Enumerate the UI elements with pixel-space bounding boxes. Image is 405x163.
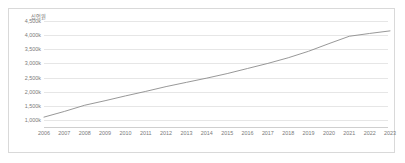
data-line-svg: [9, 9, 396, 154]
line-chart: 십억원 4,500k4,000k3,500k3,000k2,500k2,000k…: [9, 9, 394, 152]
chart-card: 십억원 4,500k4,000k3,500k3,000k2,500k2,000k…: [8, 8, 395, 153]
series-line: [44, 31, 390, 117]
